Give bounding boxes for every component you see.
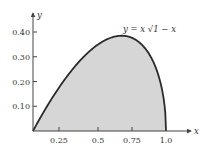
x-tick-label: 0.5 [92, 136, 105, 145]
y-axis-label: y [36, 10, 42, 20]
x-tick-label: 1.0 [160, 136, 173, 145]
y-tick-label: 0.30 [12, 53, 30, 62]
x-axis-label: x [194, 126, 199, 136]
x-tick-label: 0.75 [123, 136, 141, 145]
chart: 0.250.50.751.0 0.100.200.300.40 x y y = … [0, 0, 205, 150]
y-tick-label: 0.20 [12, 78, 30, 87]
equation-label: y = x √1 − x [122, 24, 176, 34]
x-tick-label: 0.25 [50, 136, 68, 145]
y-tick-label: 0.10 [12, 102, 30, 111]
y-tick-label: 0.40 [12, 28, 30, 37]
